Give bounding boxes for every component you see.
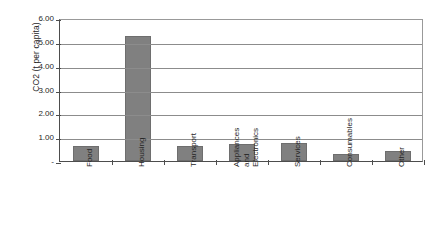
y-axis-tick-label: 5.00 <box>24 39 54 47</box>
x-axis-category-labels: FoodHousingTransportAppliancesandElectro… <box>59 163 423 243</box>
x-axis-category-label: Consumables <box>345 118 355 167</box>
gridline <box>60 44 422 45</box>
x-axis-category-label: Housing <box>137 138 147 167</box>
y-axis-tick-mark <box>56 68 61 69</box>
gridline <box>60 92 422 93</box>
gridline <box>60 115 422 116</box>
y-axis-tick-labels: 6.005.004.003.002.001.00- <box>22 0 54 243</box>
y-axis-tick-label: 3.00 <box>24 87 54 95</box>
y-axis-tick-mark <box>56 92 61 93</box>
y-axis-tick-mark <box>56 20 61 21</box>
bar-chart: CO2 (t per capita) 6.005.004.003.002.001… <box>0 0 438 243</box>
x-axis-category-label: Food <box>85 149 95 167</box>
y-axis-tick-label: 4.00 <box>24 63 54 71</box>
y-axis-tick-label: - <box>24 158 54 166</box>
y-axis-tick-mark <box>56 44 61 45</box>
y-axis-tick-label: 6.00 <box>24 15 54 23</box>
y-axis-tick-label: 2.00 <box>24 110 54 118</box>
y-axis-tick-label: 1.00 <box>24 134 54 142</box>
x-axis-tick-mark <box>424 160 425 165</box>
x-axis-category-label: Services <box>293 136 303 167</box>
gridline <box>60 68 422 69</box>
x-axis-category-label: Other <box>397 147 407 167</box>
x-axis-category-label: Transport <box>189 133 199 167</box>
y-axis-tick-mark <box>56 139 61 140</box>
y-axis-tick-mark <box>56 115 61 116</box>
x-axis-category-label: AppliancesandElectronics <box>232 128 261 167</box>
